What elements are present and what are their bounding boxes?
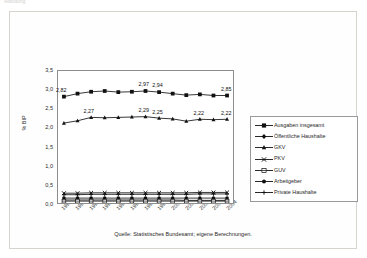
data-point-label: 2,82 bbox=[56, 87, 67, 93]
data-point-label: 2,29 bbox=[139, 107, 150, 113]
series-point bbox=[184, 93, 188, 97]
filled-square-marker bbox=[254, 121, 274, 130]
legend-item-6[interactable]: Arbeitgeber bbox=[254, 176, 355, 187]
series-point bbox=[212, 94, 216, 98]
legend-item-4[interactable]: PKV bbox=[254, 154, 355, 165]
legend-item-2[interactable]: Öffentliche Haushalte bbox=[254, 131, 355, 142]
data-point-label: 2,22 bbox=[194, 110, 205, 116]
series-point bbox=[144, 199, 148, 203]
legend-item-label: GUV bbox=[274, 168, 286, 173]
data-point-label: 2,27 bbox=[84, 108, 95, 114]
chart-series-svg bbox=[58, 71, 233, 203]
legend-item-label: Arbeitgeber bbox=[274, 179, 302, 184]
series-point bbox=[76, 199, 80, 203]
legend-item-1[interactable]: Ausgaben insgesamt bbox=[254, 120, 355, 131]
series-point bbox=[76, 92, 80, 96]
data-point-label: 2,94 bbox=[152, 82, 163, 88]
legend-item-7[interactable]: Private Haushalte bbox=[254, 187, 355, 198]
series-point bbox=[89, 199, 93, 203]
series-point bbox=[157, 90, 161, 94]
series-point bbox=[103, 199, 107, 203]
series-point bbox=[157, 199, 161, 203]
legend-item-label: PKV bbox=[274, 156, 285, 161]
filled-triangle-marker bbox=[254, 143, 274, 152]
chart-legend: Ausgaben insgesamtÖffentliche HaushalteG… bbox=[250, 116, 358, 202]
series-point bbox=[225, 94, 229, 98]
series-point bbox=[130, 199, 134, 203]
series-point bbox=[144, 89, 148, 93]
y-axis-tick: 0,5 bbox=[31, 182, 53, 188]
series-point bbox=[116, 90, 120, 94]
data-point-label: 2,25 bbox=[152, 109, 163, 115]
series-point bbox=[198, 199, 202, 203]
filled-diamond-marker bbox=[254, 132, 274, 141]
legend-item-label: Öffentliche Haushalte bbox=[274, 134, 325, 139]
data-point-label: 2,85 bbox=[221, 86, 232, 92]
series-point bbox=[184, 199, 188, 203]
y-axis-tick: 1,0 bbox=[31, 163, 53, 169]
figure-frame: % BIP 0,00,51,01,52,02,53,03,5 199219931… bbox=[9, 11, 357, 249]
y-axis-tick: 3,0 bbox=[31, 86, 53, 92]
filled-circle-marker bbox=[254, 177, 274, 186]
y-axis-tick: 0,0 bbox=[31, 201, 53, 207]
y-axis-label: % BIP bbox=[21, 103, 27, 143]
plot-area bbox=[57, 70, 234, 204]
series-point bbox=[130, 90, 134, 94]
series-point bbox=[212, 199, 216, 203]
series-point bbox=[116, 199, 120, 203]
data-point-label: 2,97 bbox=[139, 81, 150, 87]
y-axis-tick: 2,5 bbox=[31, 105, 53, 111]
data-point-label: 2,22 bbox=[221, 110, 232, 116]
series-point bbox=[171, 92, 175, 96]
legend-item-label: GKV bbox=[274, 145, 285, 150]
y-axis-tick: 1,5 bbox=[31, 144, 53, 150]
open-square-marker bbox=[254, 166, 274, 175]
top-caption: Abbildung bbox=[4, 0, 25, 4]
legend-item-5[interactable]: GUV bbox=[254, 165, 355, 176]
legend-item-label: Ausgaben insgesamt bbox=[274, 123, 324, 128]
plus-marker bbox=[254, 188, 274, 197]
series-point bbox=[62, 95, 66, 99]
y-axis-tick: 2,0 bbox=[31, 124, 53, 130]
series-point bbox=[89, 90, 93, 94]
series-point bbox=[62, 199, 66, 203]
y-axis-tick: 3,5 bbox=[31, 67, 53, 73]
cross-marker bbox=[254, 155, 274, 164]
series-point bbox=[198, 93, 202, 97]
series-point bbox=[103, 89, 107, 93]
legend-item-3[interactable]: GKV bbox=[254, 142, 355, 153]
series-point bbox=[225, 199, 229, 203]
legend-item-label: Private Haushalte bbox=[274, 190, 317, 195]
series-point bbox=[171, 199, 175, 203]
source-note: Quelle: Statistisches Bundesamt; eigene … bbox=[10, 231, 356, 237]
